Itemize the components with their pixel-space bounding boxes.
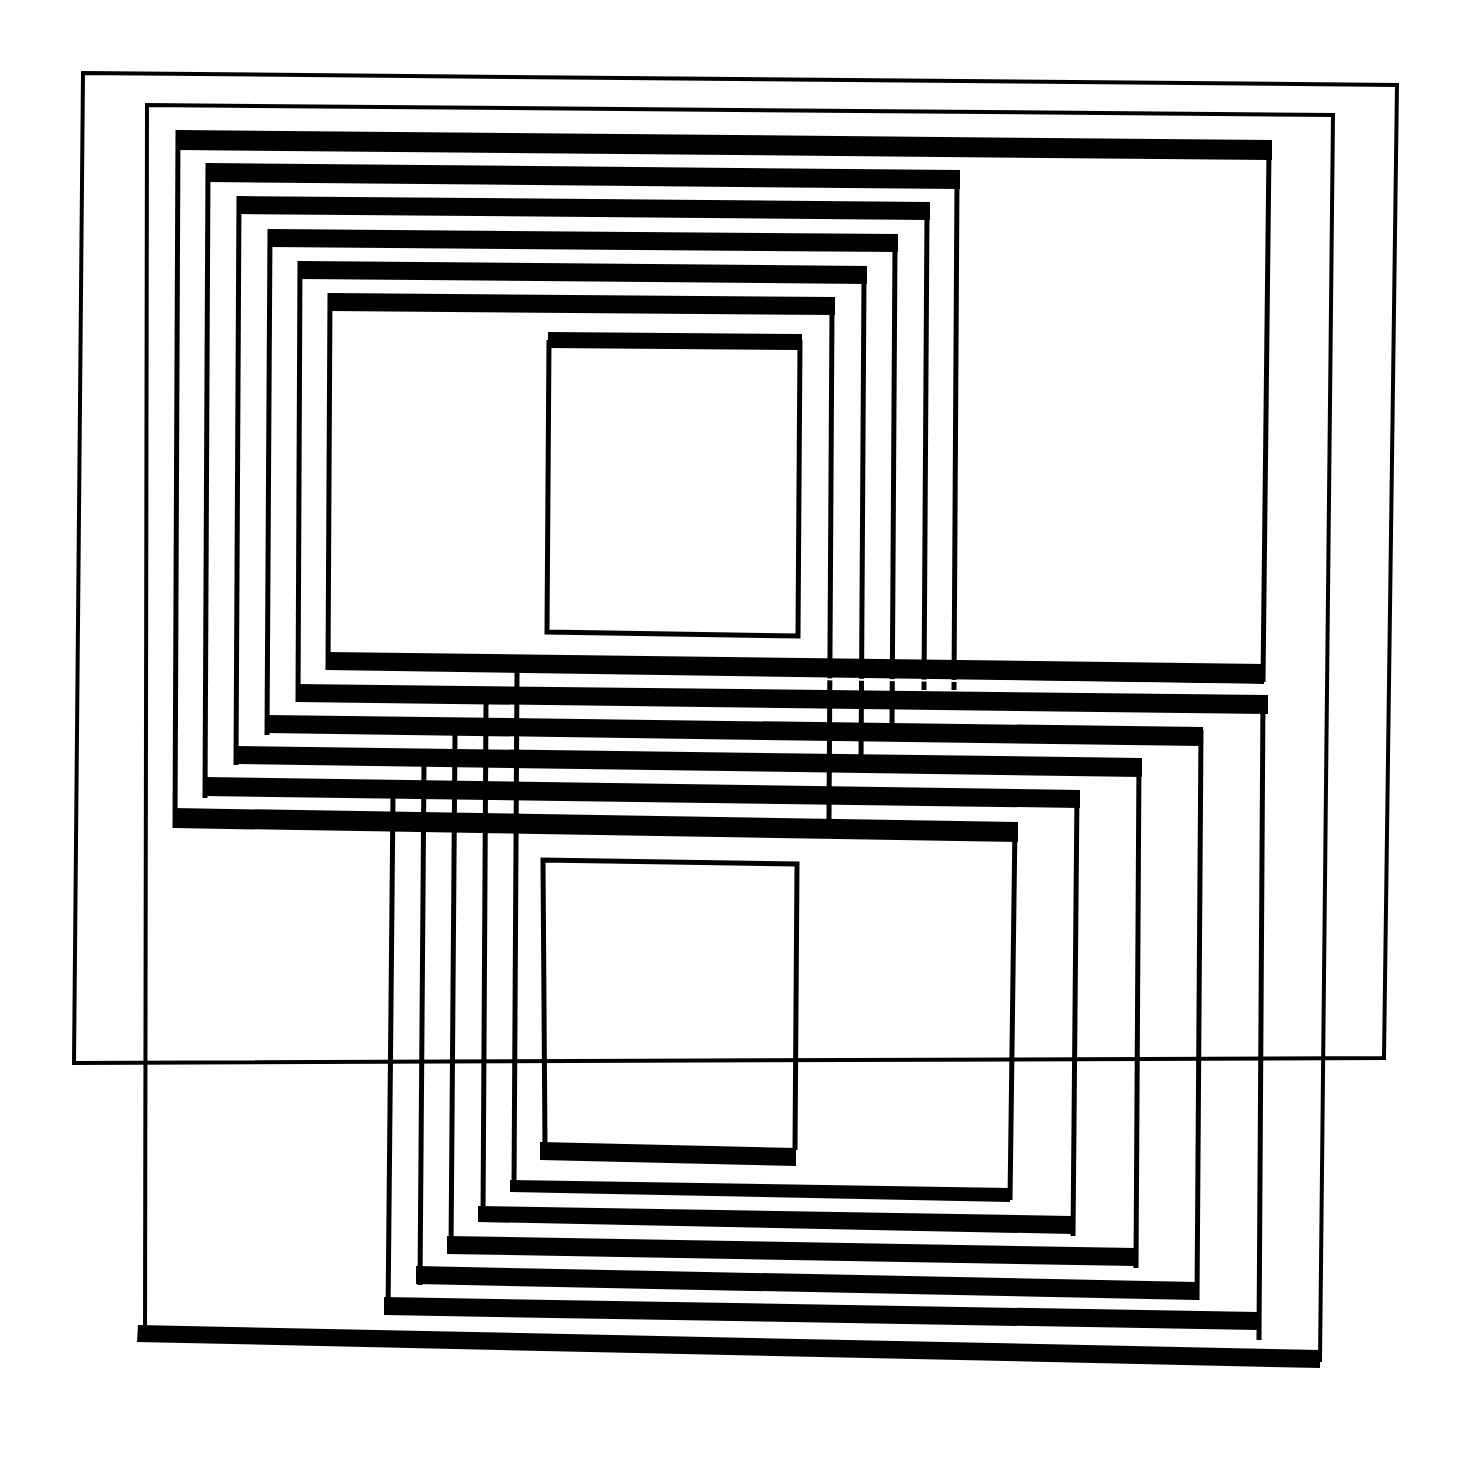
lower-bottom-bars	[384, 1180, 1258, 1330]
artwork-canvas	[0, 0, 1459, 1461]
upper-inner-square	[547, 332, 802, 636]
lower-inner-square	[540, 860, 797, 1166]
upper-bottom-bars	[173, 652, 1268, 842]
